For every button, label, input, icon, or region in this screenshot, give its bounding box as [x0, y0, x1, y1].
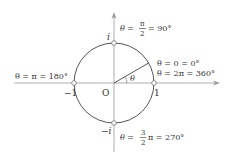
annotation-0: θ = 0 = 0°	[157, 59, 200, 68]
origin-label: O	[102, 88, 109, 98]
annotation-270-suffix: π = 270°	[148, 133, 184, 142]
label-minus-i: −i	[101, 126, 112, 136]
annotation-90-prefix: θ =	[120, 24, 134, 33]
angle-theta-label: θ	[130, 74, 135, 83]
label-1: 1	[154, 88, 160, 98]
angle-arc	[125, 77, 127, 84]
annotation-90-numerator: π	[140, 20, 145, 28]
label-i: i	[107, 32, 110, 42]
annotation-90: θ = π 2 = 90°	[120, 20, 171, 38]
annotation-270-numerator: 3	[141, 129, 145, 137]
annotation-90-denominator: 2	[140, 30, 144, 38]
point-1	[152, 81, 157, 86]
annotation-270-prefix: θ =	[120, 133, 134, 142]
point-minus-i	[112, 121, 117, 126]
label-minus-1: −1	[64, 88, 77, 98]
annotation-180: θ = π = 180°	[15, 72, 68, 81]
point-i	[112, 41, 117, 46]
annotation-360: θ = 2π = 360°	[157, 69, 215, 78]
unit-circle-diagram: i −i −1 1 O θ θ = π 2 = 90° θ = 0 = 0° θ…	[0, 0, 233, 158]
annotation-90-suffix: = 90°	[148, 24, 171, 33]
point-minus-1	[72, 81, 77, 86]
annotation-270-denominator: 2	[141, 139, 145, 147]
annotation-270: θ = 3 2 π = 270°	[120, 129, 184, 147]
